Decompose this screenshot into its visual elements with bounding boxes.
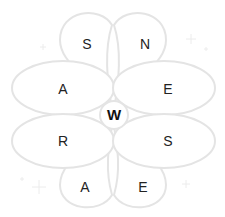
petal-letter-top-right[interactable]: N [130,34,160,54]
petal-letter-bottom-left[interactable]: A [70,177,100,197]
center-letter[interactable]: W [100,101,128,129]
petal-letter-lower-right[interactable]: S [153,131,183,151]
petal-letter-upper-left[interactable]: A [48,79,78,99]
petal-letter-upper-right[interactable]: E [153,79,183,99]
petal-letter-bottom-right[interactable]: E [128,177,158,197]
letter-flower-board: S N A E R S A E W [0,0,225,217]
petal-letter-lower-left[interactable]: R [48,131,78,151]
petal-letter-top-left[interactable]: S [72,34,102,54]
